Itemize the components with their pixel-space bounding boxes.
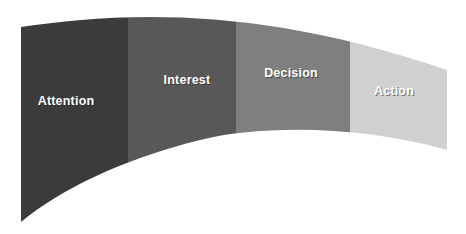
stage-label-action: Action [374,84,414,98]
stage-label-attention: Attention [38,94,95,108]
stage-attention-segment [0,0,128,234]
stage-decision-segment [236,0,350,234]
stage-action-segment [350,0,466,234]
aida-diagram: Attention Attention Interest Interest De… [0,0,466,234]
stage-label-decision: Decision [264,66,318,80]
stage-label-interest: Interest [164,73,211,87]
stage-interest-segment [128,0,236,234]
funnel-band [0,0,466,234]
